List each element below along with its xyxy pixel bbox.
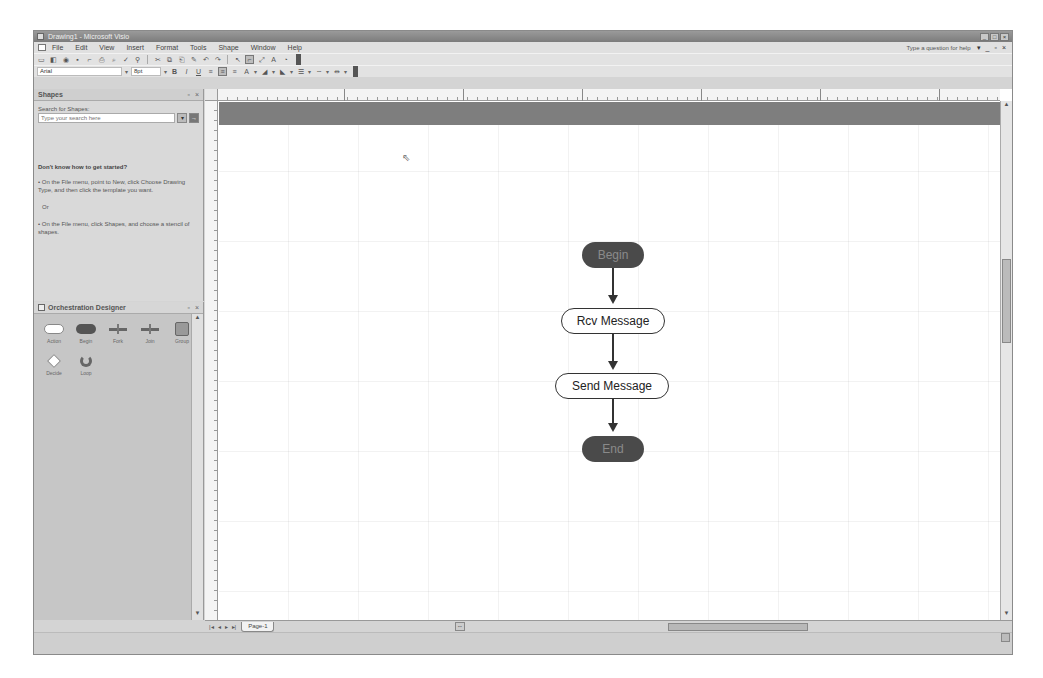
minimize-button[interactable]: _ [980,33,989,41]
paste-icon[interactable]: ⎗ [177,55,186,64]
scroll-down-icon[interactable]: ▼ [1001,610,1012,620]
align-right-icon[interactable]: ≡ [230,67,239,76]
horizontal-scroll-thumb[interactable] [668,623,808,631]
stencil-options-icon[interactable]: ▫ [187,304,189,311]
master-join[interactable]: Join [134,322,166,344]
master-action[interactable]: Action [38,322,70,344]
search-go-button[interactable]: → [189,113,199,123]
master-begin[interactable]: Begin [70,322,102,344]
line-ends-icon[interactable]: ⇹ [332,67,341,76]
underline-icon[interactable]: U [194,67,203,76]
cut-icon[interactable]: ✂ [153,55,162,64]
research-icon[interactable]: ⚲ [133,55,142,64]
print-icon[interactable]: ⎙ [97,55,106,64]
shapes-icon[interactable]: ◧ [49,55,58,64]
prev-page-button[interactable]: ◂ [218,623,221,630]
align-left-icon[interactable]: ≡ [206,67,215,76]
menu-window[interactable]: Window [251,44,276,51]
doc-minimize-button[interactable]: _ [986,44,990,52]
font-color-dropdown-icon[interactable]: ▾ [254,68,257,75]
scroll-thumb[interactable] [1002,259,1011,343]
ruler-origin[interactable] [205,89,218,101]
connector-tool-icon[interactable]: ⌐ [245,55,254,64]
pane-close-icon[interactable]: × [195,91,199,98]
node-begin[interactable]: Begin [582,242,644,268]
new-icon[interactable]: ▭ [37,55,46,64]
connection-point-icon[interactable]: ⤢ [257,55,266,64]
font-color-icon[interactable]: A [242,67,251,76]
scroll-up-icon[interactable]: ▲ [192,314,203,324]
stencil-close-icon[interactable]: × [195,304,199,311]
spelling-icon[interactable]: ✓ [121,55,130,64]
master-loop[interactable]: Loop [70,354,102,376]
drawing-tools-icon[interactable]: ◔ [281,55,290,64]
menu-shape[interactable]: Shape [218,44,238,51]
document-icon[interactable] [38,44,46,51]
menu-tools[interactable]: Tools [190,44,206,51]
connector[interactable] [612,268,614,298]
master-fork[interactable]: Fork [102,322,134,344]
tab-split-handle[interactable]: ⇔ [455,622,465,631]
font-size-select[interactable]: 8pt [131,67,161,76]
pane-options-icon[interactable]: ▫ [187,91,189,98]
scroll-up-icon[interactable]: ▲ [1001,101,1012,111]
horizontal-ruler[interactable] [218,89,1000,101]
line-weight-icon[interactable]: ☰ [296,67,305,76]
redo-icon[interactable]: ↷ [213,55,222,64]
node-end[interactable]: End [582,436,644,462]
bold-icon[interactable]: B [170,67,179,76]
menu-view[interactable]: View [99,44,114,51]
scroll-down-icon[interactable]: ▼ [192,610,203,620]
help-dropdown-icon[interactable]: ▾ [977,44,981,52]
pointer-tool-icon[interactable]: ↖ [233,55,242,64]
italic-icon[interactable]: I [182,67,191,76]
line-pattern-icon[interactable]: ┄ [314,67,323,76]
toolbar-grip[interactable] [296,54,301,65]
help-search-box[interactable]: Type a question for help [900,45,976,51]
vertical-scrollbar[interactable]: ▲ ▼ [1000,101,1012,620]
text-tool-icon[interactable]: A [269,55,278,64]
size-dropdown-icon[interactable]: ▾ [164,68,167,75]
drawing-page[interactable]: ⇖ Begin Rcv Message Send Message End [219,102,1000,620]
next-page-button[interactable]: ▸ [225,623,228,630]
copy-icon[interactable]: ⧉ [165,55,174,64]
permission-icon[interactable]: ⌐ [85,55,94,64]
font-dropdown-icon[interactable]: ▾ [125,68,128,75]
vertical-ruler[interactable] [205,101,218,620]
resize-grip[interactable] [1001,633,1010,642]
menu-insert[interactable]: Insert [126,44,144,51]
last-page-button[interactable]: ▸| [232,623,237,630]
open-icon[interactable]: ◉ [61,55,70,64]
close-button[interactable]: × [1000,33,1009,41]
fill-color-icon[interactable]: ◣ [278,67,287,76]
undo-icon[interactable]: ↶ [201,55,210,64]
node-send-message[interactable]: Send Message [555,373,669,399]
doc-restore-button[interactable]: ▫ [994,44,996,52]
format-painter-icon[interactable]: ✎ [189,55,198,64]
font-name-select[interactable]: Arial [37,67,122,76]
first-page-button[interactable]: |◂ [209,623,214,630]
print-preview-icon[interactable]: ⌕ [109,55,118,64]
menu-file[interactable]: File [52,44,63,51]
master-decide[interactable]: Decide [38,354,70,376]
node-rcv-message[interactable]: Rcv Message [561,308,665,334]
shape-search-input[interactable] [38,113,175,123]
stencil-header[interactable]: Orchestration Designer ▫ × [34,302,203,314]
maximize-button[interactable]: □ [990,33,999,41]
doc-close-button[interactable]: × [1002,44,1006,52]
search-options-icon[interactable]: ▾ [177,113,187,123]
line-weight-dropdown-icon[interactable]: ▾ [308,68,311,75]
menu-edit[interactable]: Edit [75,44,87,51]
connector[interactable] [612,334,614,364]
line-color-icon[interactable]: ◢ [260,67,269,76]
tab-page-1[interactable]: Page-1 [241,622,274,632]
line-pattern-dropdown-icon[interactable]: ▾ [326,68,329,75]
save-icon[interactable]: ▪ [73,55,82,64]
line-color-dropdown-icon[interactable]: ▾ [272,68,275,75]
line-ends-dropdown-icon[interactable]: ▾ [344,68,347,75]
fill-color-dropdown-icon[interactable]: ▾ [290,68,293,75]
menu-help[interactable]: Help [288,44,302,51]
page-header-band[interactable] [219,102,1000,125]
stencil-scrollbar[interactable]: ▲ ▼ [191,314,203,620]
toolbar-grip[interactable] [353,66,358,77]
